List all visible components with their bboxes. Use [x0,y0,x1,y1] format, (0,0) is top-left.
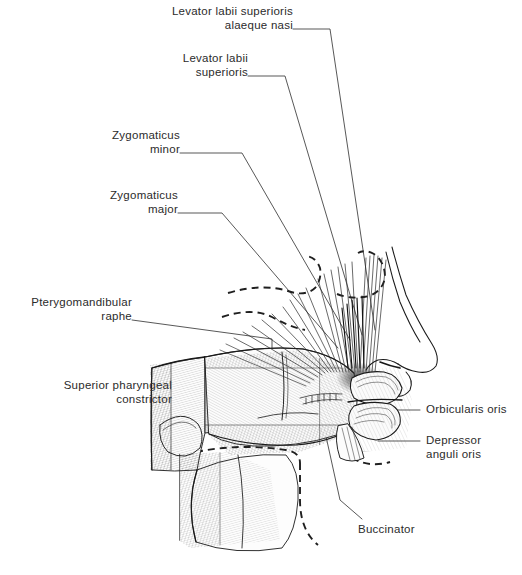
label-depressor-anguli-oris: Depressor anguli oris [426,434,520,461]
anatomy-drawing [0,0,522,575]
label-levator-labii-superioris: Levator labii superioris [118,52,248,79]
mandible-soft-tissue [180,448,310,558]
label-zygomaticus-major: Zygomaticus major [68,189,178,216]
label-levator-labii-superioris-alaeque-nasi: Levator labii superioris alaeque nasi [128,5,293,32]
illustration-canvas: Levator labii superioris alaeque nasi Le… [0,0,522,575]
label-superior-pharyngeal-constrictor: Superior pharyngeal constrictor [42,379,172,406]
label-pterygomandibular-raphe: Pterygomandibular raphe [12,296,132,323]
label-buccinator: Buccinator [358,523,448,537]
label-orbicularis-oris: Orbicularis oris [426,403,520,417]
label-zygomaticus-minor: Zygomaticus minor [70,129,180,156]
